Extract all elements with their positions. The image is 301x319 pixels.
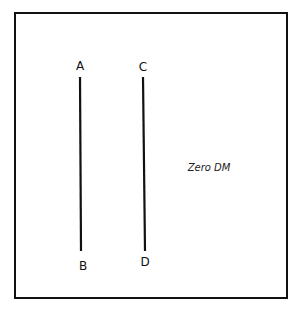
label-c: C (139, 61, 147, 73)
line-ab (80, 77, 81, 251)
label-b: B (79, 260, 87, 272)
zero-dm-annotation: Zero DM (188, 162, 231, 173)
label-a: A (76, 60, 84, 72)
line-cd (143, 77, 145, 251)
label-d: D (140, 256, 149, 268)
diagram-lines (0, 0, 301, 319)
